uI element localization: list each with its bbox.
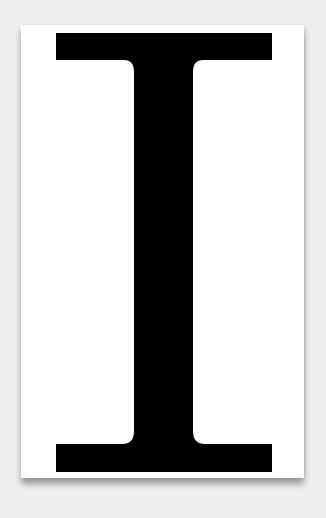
serif-letter-i-glyph [0, 0, 326, 518]
